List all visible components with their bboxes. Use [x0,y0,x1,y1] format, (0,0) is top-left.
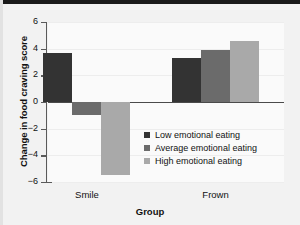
chart-figure: Change in food craving score 6420−2−4−6 … [0,0,300,225]
y-axis-tick-label: 4 [16,43,38,53]
y-axis-tick-label: −6 [16,176,38,186]
legend-label: High emotional eating [155,156,242,166]
bar [230,41,259,102]
x-axis-title: Group [0,206,300,217]
scan-left-band [0,0,3,225]
x-axis-spine-stub [46,182,52,183]
bar [72,102,101,115]
gridline [48,22,284,23]
y-axis-tick [41,182,46,183]
bar [101,102,130,175]
y-axis-tick-label: 2 [16,69,38,79]
legend-swatch-icon [144,145,150,151]
y-axis-tick-label: 6 [16,16,38,26]
legend-item: Low emotional eating [144,128,257,141]
y-axis-tick [41,155,46,156]
legend-label: Low emotional eating [155,130,240,140]
legend: Low emotional eatingAverage emotional ea… [144,128,257,167]
legend-swatch-icon [144,132,150,138]
y-axis-tick-label: 0 [16,96,38,106]
y-axis-tick-label: −4 [16,149,38,159]
y-axis-tick [41,129,46,130]
y-axis-tick [41,22,46,23]
legend-item: High emotional eating [144,154,257,167]
bar [172,58,201,102]
y-axis-tick [41,49,46,50]
y-axis-tick [41,102,46,103]
bar [43,53,72,102]
legend-item: Average emotional eating [144,141,257,154]
legend-swatch-icon [144,158,150,164]
y-axis-tick-label: −2 [16,123,38,133]
scan-top-band [0,0,300,4]
legend-label: Average emotional eating [155,143,257,153]
y-axis-spine [46,22,47,182]
x-axis-group-label: Smile [57,189,117,200]
gridline [48,182,284,183]
bar [201,50,230,102]
x-axis-group-label: Frown [186,189,246,200]
